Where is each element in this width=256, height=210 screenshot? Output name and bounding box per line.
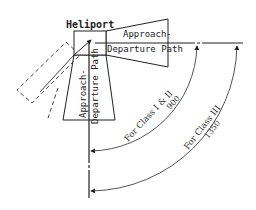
bottom-path-label-line1: Approach-	[78, 69, 88, 118]
alternate-path-dashed-outline	[17, 42, 80, 118]
bottom-path-label-line2: Departure Path	[90, 48, 100, 124]
heliport-diagram: Heliport Approach- Departure Path Approa…	[0, 0, 256, 210]
arc-inner-label: For Class I & II	[122, 88, 174, 143]
right-path-label-line2: Departure Path	[107, 44, 183, 54]
right-path-label-line1: Approach-	[123, 29, 172, 39]
heliport-label: Heliport	[66, 19, 114, 30]
